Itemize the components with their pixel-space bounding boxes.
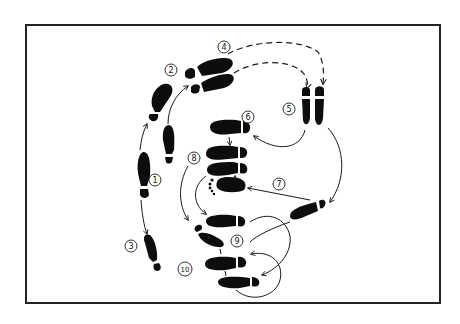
footprint-step-7 xyxy=(290,200,326,220)
arrow-8-to-step-8 xyxy=(181,166,189,220)
footprint-step-9 xyxy=(206,215,245,228)
step-label-2: 2 xyxy=(165,64,177,76)
footprint-step-5 xyxy=(302,86,324,125)
svg-text:1: 1 xyxy=(152,176,157,185)
dance-step-diagram: 1 2 3 4 5 6 7 8 9 10 xyxy=(0,0,460,324)
arrow-6b-to-9 xyxy=(196,176,207,214)
footprint-step-2-support xyxy=(163,125,175,164)
svg-text:8: 8 xyxy=(191,154,196,163)
footprint-step-8 xyxy=(195,225,224,247)
svg-text:3: 3 xyxy=(128,242,133,251)
svg-text:4: 4 xyxy=(221,43,226,52)
step-label-5: 5 xyxy=(283,103,295,115)
dashed-arrow-4-to-5-b xyxy=(234,63,308,88)
step-label-7: 7 xyxy=(273,178,285,190)
step-label-4: 4 xyxy=(218,41,230,53)
footprint-step-3 xyxy=(144,234,161,271)
arrow-1-to-2 xyxy=(140,124,147,150)
step-label-8: 8 xyxy=(188,152,200,164)
footprint-step-4 xyxy=(185,58,234,93)
svg-text:10: 10 xyxy=(181,266,190,274)
arrow-5-to-7 xyxy=(328,128,342,202)
footprint-step-6b xyxy=(206,146,247,176)
arrow-step-7-curve xyxy=(250,222,290,242)
barefoot-step-7 xyxy=(209,177,246,195)
step-label-1: 1 xyxy=(149,174,161,186)
footprint-step-10 xyxy=(205,249,259,288)
svg-text:7: 7 xyxy=(276,180,281,189)
step-label-10: 10 xyxy=(178,262,192,276)
svg-text:9: 9 xyxy=(234,237,239,246)
footprint-step-1 xyxy=(138,152,151,198)
svg-text:6: 6 xyxy=(245,113,250,122)
arrow-9-loop xyxy=(250,216,290,275)
svg-text:5: 5 xyxy=(286,105,291,114)
step-label-6: 6 xyxy=(242,111,254,123)
arrow-6-to-6b xyxy=(229,137,230,145)
svg-text:2: 2 xyxy=(168,66,173,75)
step-label-3: 3 xyxy=(125,240,137,252)
arrow-5-to-6 xyxy=(254,130,305,147)
arrow-1-to-3 xyxy=(141,200,147,234)
step-label-9: 9 xyxy=(231,235,243,247)
